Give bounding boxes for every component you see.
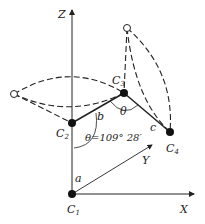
open-circle-left [11,91,18,98]
c2-label: C2 [56,127,69,141]
open-circle-top [124,25,131,32]
diagram-svg: Z X Y C1 C2 C3 C4 a b c θ θ=109° 28′ [0,0,205,224]
c3-label: C3 [112,74,125,88]
atom-c1 [68,190,76,198]
y-axis [72,145,152,194]
z-label: Z [57,8,66,21]
bond-c-label: c [150,121,156,134]
theta-label: θ [120,105,127,118]
c1-label: C1 [67,203,80,217]
c4-label: C4 [166,142,179,156]
y-label: Y [142,154,151,167]
bond-b-label: b [97,110,104,123]
bond-a-label: a [75,172,82,185]
tetrahedral-angle-label: θ=109° 28′ [85,132,142,143]
atom-c4 [166,128,174,136]
tetrahedral-chain-diagram: Z X Y C1 C2 C3 C4 a b c θ θ=109° 28′ [0,0,205,224]
rotation-cones [14,28,170,132]
atom-c3 [120,89,128,97]
atom-c2 [68,119,76,127]
x-label: X [179,203,189,216]
